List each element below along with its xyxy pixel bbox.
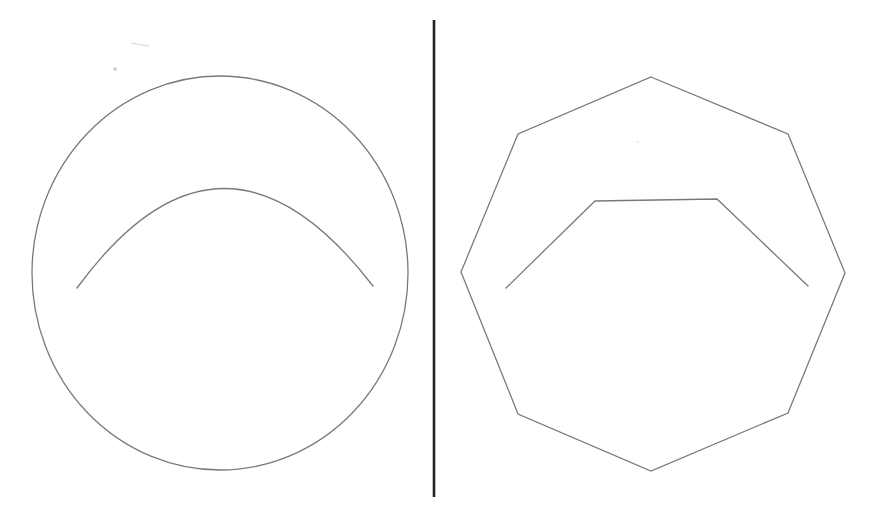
background [0, 0, 871, 522]
diagram-canvas [0, 0, 871, 522]
